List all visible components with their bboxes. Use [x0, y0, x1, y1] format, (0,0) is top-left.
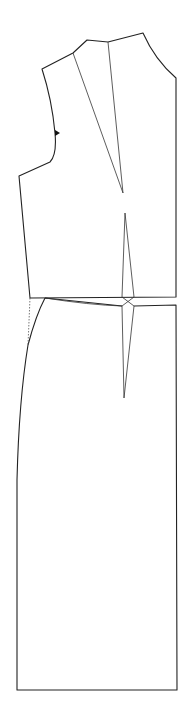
skirt-waist-dart: [122, 306, 134, 398]
pattern-drawing: [0, 0, 184, 716]
armhole-notch-icon: [55, 130, 60, 136]
skirt-outline: [17, 298, 177, 690]
bodice-waist-dart: [122, 213, 134, 297]
bodice-outline: [19, 33, 176, 298]
waist-crossing: [122, 297, 134, 306]
shoulder-dart: [73, 42, 123, 193]
pattern-canvas: [0, 0, 184, 716]
